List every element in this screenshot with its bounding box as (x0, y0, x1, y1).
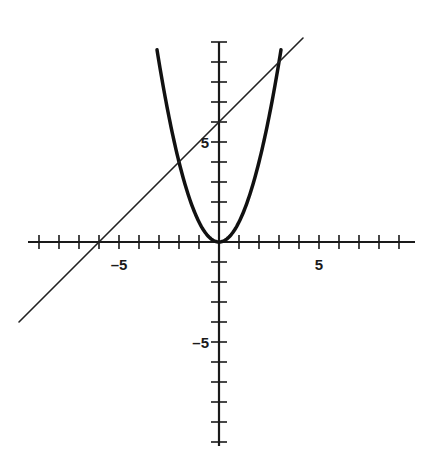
x-tick-label: –5 (111, 256, 128, 273)
y-tick-label: –5 (192, 334, 209, 351)
y-tick-label: 5 (201, 134, 209, 151)
chart-canvas: –555–5 (0, 0, 425, 464)
x-tick-label: 5 (315, 256, 323, 273)
